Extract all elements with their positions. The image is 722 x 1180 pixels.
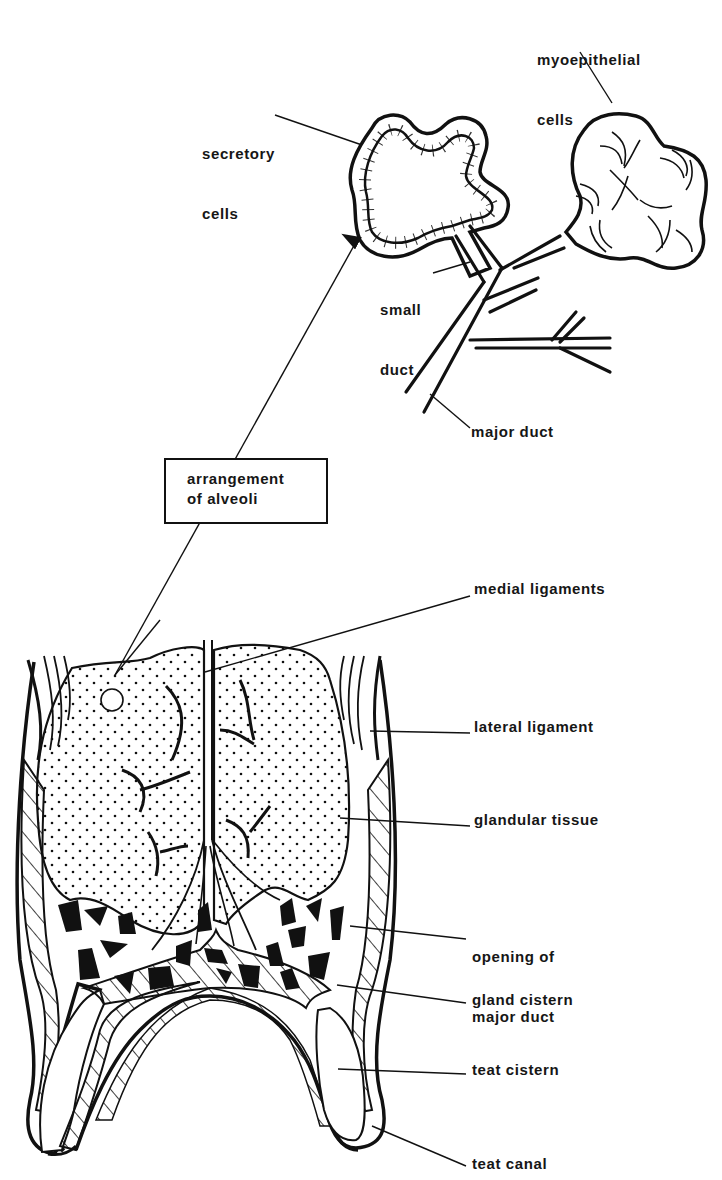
label-lateral-ligament: lateral ligament (474, 717, 594, 737)
label-line: duct (380, 360, 421, 380)
label-line: cells (537, 110, 641, 130)
label-line: opening of (472, 947, 555, 967)
udder-section (17, 640, 395, 1155)
label-line: secretory (202, 144, 275, 164)
alveoli-focus-circle (101, 689, 123, 711)
duct-tree (406, 226, 610, 412)
label-teat-cistern: teat cistern (472, 1060, 559, 1080)
label-line: arrangement (187, 469, 326, 489)
label-glandular-tissue: glandular tissue (474, 810, 599, 830)
secretory-alveolus (350, 115, 508, 276)
label-gland-cistern: gland cistern (472, 990, 573, 1010)
label-myoepithelial-cells: myoepithelial cells (537, 10, 641, 150)
mammary-diagram (0, 0, 722, 1180)
label-small-duct: small duct (380, 260, 421, 400)
label-line: myoepithelial (537, 50, 641, 70)
label-opening-of-major-duct: opening of major duct (472, 907, 555, 1047)
label-teat-canal: teat canal (472, 1154, 547, 1174)
label-secretory-cells: secretory cells (202, 104, 275, 244)
arrangement-of-alveoli-box: arrangement of alveoli (164, 458, 328, 524)
label-line: of alveoli (187, 489, 326, 509)
label-line: cells (202, 204, 275, 224)
label-medial-ligaments: medial ligaments (474, 579, 605, 599)
label-major-duct: major duct (471, 422, 554, 442)
label-line: small (380, 300, 421, 320)
label-line: major duct (472, 1007, 555, 1027)
